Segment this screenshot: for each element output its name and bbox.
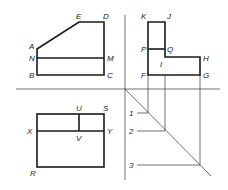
label-a: A (28, 42, 34, 51)
front-view-outline (37, 22, 104, 75)
label-b: B (29, 71, 35, 80)
label-d: D (103, 12, 109, 21)
label-c: C (107, 71, 113, 80)
label-s: S (103, 104, 109, 113)
label-m: M (107, 54, 114, 63)
label-f: F (141, 71, 147, 80)
label-v: V (76, 134, 82, 143)
miter-line (125, 89, 211, 176)
label-3: 3 (129, 161, 134, 170)
label-e: E (76, 12, 82, 21)
label-x: X (26, 127, 33, 136)
top-view-outline (37, 114, 104, 167)
label-i: I (160, 60, 163, 69)
projection-drawing: E D A N M B C K J P Q I H F G U S X Y V … (0, 0, 228, 190)
label-p: P (141, 45, 147, 54)
label-u: U (76, 104, 82, 113)
label-g: G (203, 71, 209, 80)
label-k: K (141, 12, 147, 21)
label-j: J (166, 12, 172, 21)
label-h: H (203, 54, 209, 63)
label-r: R (30, 169, 36, 178)
label-1: 1 (129, 109, 133, 118)
label-y: Y (107, 127, 113, 136)
label-q: Q (167, 45, 173, 54)
label-n: N (29, 54, 35, 63)
label-2: 2 (128, 127, 134, 136)
